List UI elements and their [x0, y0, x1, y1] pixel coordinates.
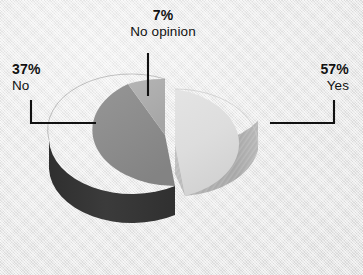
label-no-opinion: 7% No opinion: [104, 8, 222, 39]
leader-line-yes: [270, 100, 334, 123]
label-no-name: No: [12, 78, 41, 93]
label-yes-name: Yes: [320, 78, 349, 93]
slice-yes-3d: [175, 89, 258, 196]
label-no-percent: 37%: [12, 62, 41, 78]
label-yes-percent: 57%: [320, 62, 349, 78]
label-no-opinion-percent: 7%: [104, 8, 222, 24]
pie-chart-canvas: [0, 0, 363, 275]
label-yes: 57% Yes: [320, 62, 349, 93]
label-no: 37% No: [12, 62, 41, 93]
label-no-opinion-name: No opinion: [104, 24, 222, 39]
pie-chart-figure: 7% No opinion 37% No 57% Yes: [0, 0, 363, 275]
leader-line-no: [31, 100, 96, 123]
